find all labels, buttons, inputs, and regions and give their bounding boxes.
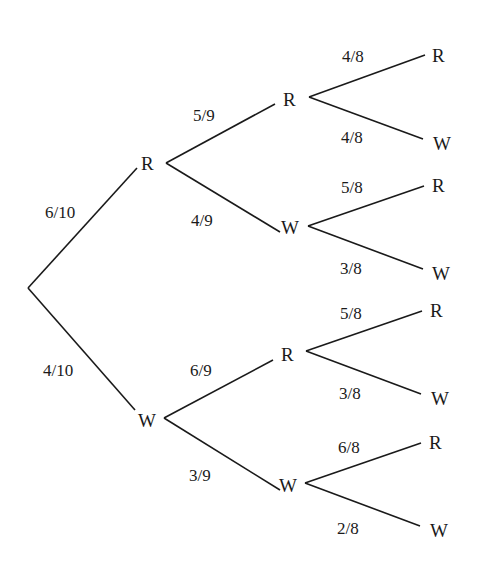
prob-WR: 6/9 bbox=[190, 361, 212, 380]
edge-RW-to-R bbox=[308, 186, 424, 226]
prob-WW: 3/9 bbox=[189, 466, 211, 485]
edge-W-to-WR bbox=[164, 360, 273, 418]
prob-RWR: 5/8 bbox=[341, 178, 363, 197]
prob-R: 6/10 bbox=[45, 203, 75, 222]
edge-WR-to-R bbox=[306, 311, 422, 351]
prob-WRR: 5/8 bbox=[340, 304, 362, 323]
edge-root-to-R bbox=[28, 168, 137, 288]
leaf-RRR: R bbox=[432, 45, 445, 66]
edge-RW-to-W bbox=[308, 226, 423, 269]
edge-WW-to-R bbox=[305, 443, 421, 483]
tree-diagram: R W 6/10 4/10 R W R W 5/9 4/9 6/9 3/9 R … bbox=[0, 0, 479, 564]
edge-RR-to-W bbox=[309, 97, 423, 139]
node-WW: W bbox=[279, 475, 297, 496]
leaf-WRR: R bbox=[430, 300, 443, 321]
node-RR: R bbox=[283, 89, 296, 110]
prob-RWW: 3/8 bbox=[340, 259, 362, 278]
prob-WRW: 3/8 bbox=[339, 384, 361, 403]
prob-RRR: 4/8 bbox=[342, 47, 364, 66]
prob-WWR: 6/8 bbox=[338, 438, 360, 457]
node-R: R bbox=[141, 153, 154, 174]
leaf-RRW: W bbox=[433, 133, 451, 154]
leaf-WWR: R bbox=[429, 432, 442, 453]
edge-WR-to-W bbox=[306, 351, 421, 394]
edge-R-to-RR bbox=[166, 104, 275, 163]
edge-WW-to-W bbox=[305, 483, 420, 526]
edge-R-to-RW bbox=[166, 163, 280, 232]
node-RW: W bbox=[281, 217, 299, 238]
edge-W-to-WW bbox=[164, 418, 280, 490]
node-WR: R bbox=[281, 344, 294, 365]
prob-RRW: 4/8 bbox=[341, 128, 363, 147]
leaf-RWR: R bbox=[432, 175, 445, 196]
leaf-WRW: W bbox=[431, 388, 449, 409]
node-W: W bbox=[138, 410, 156, 431]
edge-RR-to-R bbox=[309, 55, 425, 97]
prob-WWW: 2/8 bbox=[337, 519, 359, 538]
leaf-RWW: W bbox=[432, 263, 450, 284]
edge-root-to-W bbox=[28, 288, 135, 410]
prob-W: 4/10 bbox=[43, 361, 73, 380]
prob-RW: 4/9 bbox=[191, 211, 213, 230]
prob-RR: 5/9 bbox=[193, 106, 215, 125]
tree-diagram-canvas: R W 6/10 4/10 R W R W 5/9 4/9 6/9 3/9 R … bbox=[0, 0, 479, 564]
leaf-WWW: W bbox=[430, 520, 448, 541]
